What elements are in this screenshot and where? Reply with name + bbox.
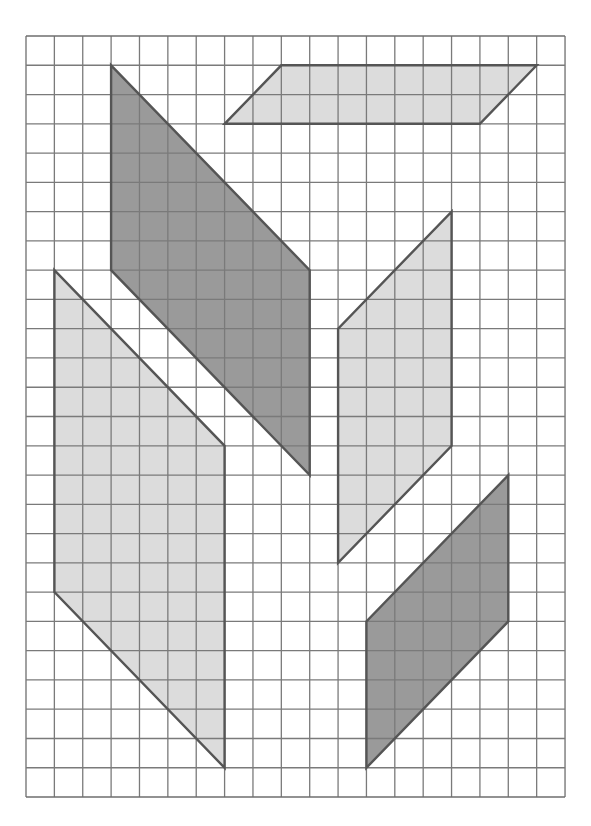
grid-lines [26, 36, 565, 797]
grid-diagram [0, 0, 591, 826]
